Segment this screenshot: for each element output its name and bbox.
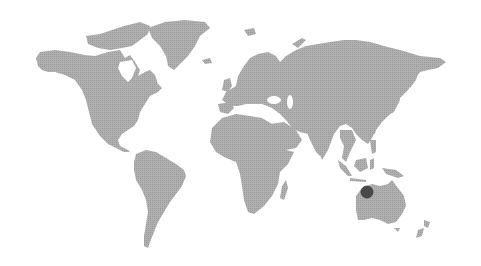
island-java — [350, 178, 366, 182]
continent-australia — [356, 180, 406, 224]
island-novaya-zemlya — [292, 38, 306, 48]
island-iceland — [202, 58, 212, 64]
world-map-svg — [0, 0, 481, 266]
island-madagascar — [280, 180, 288, 200]
island-new-guinea — [382, 168, 404, 178]
world-map[interactable]: Western Australia — [0, 0, 481, 266]
region-india — [306, 126, 332, 156]
island-sulawesi — [370, 158, 374, 170]
continent-greenland — [148, 20, 210, 70]
island-borneo — [354, 158, 368, 172]
island-taiwan — [372, 128, 376, 134]
island-svalbard — [244, 28, 256, 36]
island-tasmania — [394, 228, 400, 232]
arctic-islands — [86, 22, 150, 50]
island-new-zealand-south — [416, 228, 424, 238]
continent-south-america — [134, 150, 186, 248]
island-philippines — [370, 140, 376, 154]
island-sumatra — [338, 160, 352, 176]
black-sea — [267, 96, 281, 104]
caspian-sea — [287, 95, 293, 109]
region-southeast-asia — [340, 130, 356, 162]
continent-north-america — [36, 50, 162, 152]
island-new-zealand-north — [424, 220, 430, 228]
